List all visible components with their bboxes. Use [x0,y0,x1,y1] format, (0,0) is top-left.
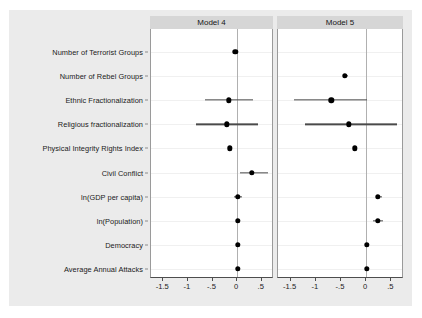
x-axis-tick-label: -1 [184,282,191,291]
x-axis-tick-label: .5 [258,282,264,291]
gridline [151,148,272,149]
panel-title: Model 5 [326,18,354,27]
estimate-point [364,242,369,247]
gridline [151,76,272,77]
estimate-point [227,146,232,151]
plot-area [277,29,403,278]
x-axis-tick-label: -1 [311,282,318,291]
x-axis-tick-label: -.5 [336,282,345,291]
y-axis-labels: Number of Terrorist GroupsNumber of Rebe… [9,10,148,306]
gridline [278,197,402,198]
y-axis-label: Ethnic Fractionalization [65,96,143,105]
gridline [151,245,272,246]
y-axis-tick [145,76,148,77]
x-axis-tick-label: 0 [363,282,367,291]
x-axis-tick-label: -1.5 [283,282,296,291]
zero-reference-line [366,29,367,277]
estimate-point [235,266,240,271]
gridline [151,197,272,198]
estimate-point [249,170,254,175]
y-axis-tick [145,244,148,245]
y-axis-tick [145,196,148,197]
y-axis-label: Number of Rebel Groups [60,72,143,81]
y-axis-label: Civil Conflict [102,168,143,177]
estimate-point [346,122,351,127]
estimate-point [235,218,240,223]
y-axis-tick [145,100,148,101]
y-axis-tick [145,268,148,269]
estimate-point [364,266,369,271]
panel-model-5: Model 5-1.5-1-.50.5 [277,16,403,278]
panel-model-4: Model 4-1.5-1-.50.5 [150,16,273,278]
panel-title-bar: Model 5 [277,16,403,29]
x-axis-tick-label: .5 [387,282,393,291]
estimate-point [375,218,380,223]
estimate-point [342,73,347,78]
y-axis-tick [145,124,148,125]
y-axis-tick [145,52,148,53]
gridline [278,173,402,174]
estimate-point [375,194,380,199]
estimate-point [224,122,229,127]
y-axis-label: Democracy [105,240,143,249]
y-axis-label: Number of Terrorist Groups [52,48,143,57]
y-axis-label: ln(GDP per capita) [81,192,143,201]
gridline [278,148,402,149]
y-axis-tick [145,148,148,149]
gridline [278,269,402,270]
plot-area [150,29,273,278]
panel-title-bar: Model 4 [150,16,273,29]
estimate-point [226,97,231,102]
gridline [278,221,402,222]
y-axis-tick [145,220,148,221]
y-axis-label: ln(Population) [97,216,143,225]
estimate-point [235,242,240,247]
y-axis-label: Average Annual Attacks [64,264,143,273]
y-axis-label: Religious fractionalization [58,120,143,129]
gridline [151,269,272,270]
panel-title: Model 4 [197,18,225,27]
zero-reference-line [237,29,238,277]
x-axis-tick-label: -1.5 [156,282,169,291]
estimate-point [352,146,357,151]
gridline [278,76,402,77]
y-axis-label: Physical Integrity Rights Index [42,144,143,153]
x-axis-tick-label: -.5 [207,282,216,291]
x-axis-tick-label: 0 [234,282,238,291]
estimate-point [235,194,240,199]
y-axis-tick [145,172,148,173]
estimate-point [329,97,334,102]
gridline [151,52,272,53]
gridline [151,221,272,222]
gridline [278,52,402,53]
gridline [278,245,402,246]
coefficient-plot-figure: Number of Terrorist GroupsNumber of Rebe… [9,10,412,306]
